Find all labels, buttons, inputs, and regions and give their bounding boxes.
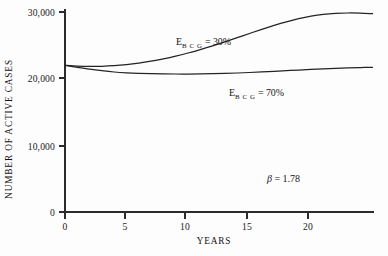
chart-canvas: 30,000 20,000 10,000 0 0 5 10 15 20 YEAR… <box>0 0 388 256</box>
x-axis-title: YEARS <box>197 236 232 246</box>
curve-label-ebcg-70: EB C G = 70% <box>229 87 284 100</box>
curve-label-ebcg-30-rest: = 30% <box>202 36 231 47</box>
beta-annotation: β = 1.78 <box>266 173 300 184</box>
y-ticklabel-30000: 30,000 <box>28 7 55 18</box>
curve-label-ebcg-30: EB C G = 30% <box>176 36 231 49</box>
y-axis-title: NUMBER OF ACTIVE CASES <box>4 59 14 199</box>
y-ticklabel-10000: 10,000 <box>28 141 55 152</box>
x-ticklabel-0: 0 <box>63 221 68 232</box>
series-line-ebcg-70 <box>65 65 373 74</box>
y-ticklabel-0: 0 <box>50 207 55 218</box>
x-ticklabel-5: 5 <box>123 221 128 232</box>
y-ticklabel-20000: 20,000 <box>28 73 55 84</box>
x-ticklabel-10: 10 <box>180 221 190 232</box>
curve-label-ebcg-70-sub: B C G <box>235 93 255 100</box>
beta-value: = 1.78 <box>272 173 300 184</box>
x-ticklabel-20: 20 <box>303 221 313 232</box>
chart-figure: 30,000 20,000 10,000 0 0 5 10 15 20 YEAR… <box>0 0 388 256</box>
curve-label-ebcg-30-sub: B C G <box>182 42 202 49</box>
x-ticklabel-15: 15 <box>242 221 252 232</box>
curve-label-ebcg-70-rest: = 70% <box>255 87 284 98</box>
